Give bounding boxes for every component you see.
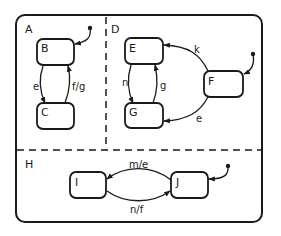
initial-arrow-b: [75, 28, 90, 44]
transition-label-k: k: [194, 44, 200, 55]
state-label-i: I: [75, 176, 78, 189]
region-a: B C e f/g: [33, 26, 92, 129]
transition-e-g: [129, 65, 133, 103]
state-label-f: F: [208, 75, 214, 88]
region-label-h: H: [25, 158, 33, 171]
initial-arrow-j: [209, 166, 228, 179]
transition-j-i: [107, 169, 171, 180]
state-label-c: C: [41, 106, 49, 119]
region-label-a: A: [25, 23, 33, 36]
statechart-diagram: A D H B C e f/g E G F n g k: [0, 0, 281, 236]
transition-label-f-g: f/g: [72, 81, 85, 92]
state-label-j: J: [175, 176, 179, 189]
transition-g-e: [153, 65, 157, 103]
transition-b-c: [40, 66, 45, 103]
state-label-e: E: [129, 42, 136, 55]
transition-label-m-e: m/e: [129, 159, 148, 170]
transition-label-n: n: [122, 77, 128, 88]
transition-label-e: e: [33, 81, 39, 92]
transition-label-e2: e: [196, 113, 202, 124]
state-label-b: B: [41, 42, 49, 55]
transition-c-b: [65, 66, 70, 103]
transition-label-g: g: [160, 80, 166, 91]
transition-label-n-f: n/f: [130, 204, 144, 215]
transition-i-j: [107, 191, 170, 201]
region-d: E G F n g k e: [122, 38, 255, 128]
region-h: I J m/e n/f: [70, 159, 230, 215]
transition-f-e: [164, 45, 208, 71]
initial-arrow-f: [244, 54, 254, 74]
state-label-g: G: [129, 106, 138, 119]
region-label-d: D: [111, 23, 119, 36]
